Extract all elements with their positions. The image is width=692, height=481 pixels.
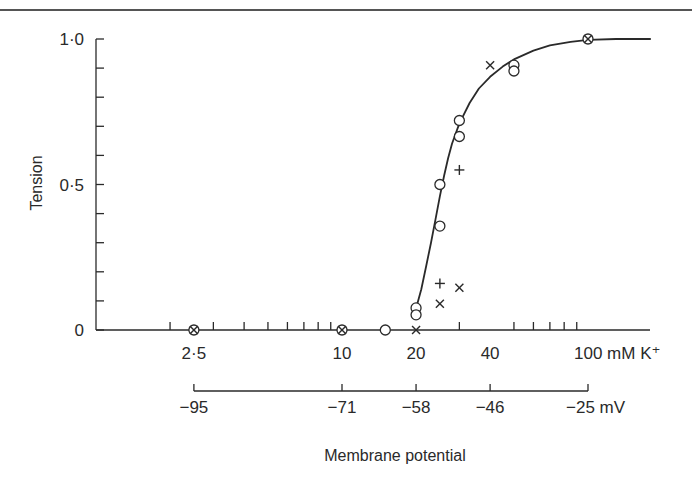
secondary-tick-label: −46	[476, 398, 505, 417]
plus-marker	[435, 278, 445, 288]
circle-marker	[435, 221, 445, 231]
x-tick-label: 10	[333, 344, 352, 363]
data-points	[189, 34, 593, 335]
x-tick-label: 40	[481, 344, 500, 363]
y-tick-label: 1·0	[59, 30, 84, 49]
fit-curve-line	[416, 39, 651, 308]
cross-marker	[455, 284, 463, 292]
x-tick-label: 2·5	[182, 344, 207, 363]
fit-curve	[416, 39, 651, 308]
circle-marker	[411, 310, 421, 320]
cross-marker	[436, 300, 444, 308]
circle-marker	[435, 180, 445, 190]
plus-marker	[454, 165, 464, 175]
circle-marker	[509, 66, 519, 76]
secondary-tick-label: −71	[328, 398, 357, 417]
secondary-tick-label: −58	[402, 398, 431, 417]
secondary-tick-label: −25 mV	[566, 398, 626, 417]
secondary-axis-title: Membrane potential	[324, 447, 465, 464]
y-axis-label: Tension	[28, 155, 45, 210]
x-tick-label: 100 mM K⁺	[574, 344, 660, 363]
y-tick-label: 0·5	[59, 176, 84, 195]
cross-marker	[486, 61, 494, 69]
circle-marker	[454, 131, 464, 141]
circle-marker	[380, 325, 390, 335]
axes: 00·51·02·5102040100 mM K⁺−95−71−58−46−25…	[59, 30, 660, 417]
tension-vs-potassium-chart: 00·51·02·5102040100 mM K⁺−95−71−58−46−25…	[0, 0, 692, 481]
x-tick-label: 20	[407, 344, 426, 363]
y-tick-label: 0	[75, 321, 84, 340]
circle-marker	[454, 115, 464, 125]
secondary-tick-label: −95	[179, 398, 208, 417]
